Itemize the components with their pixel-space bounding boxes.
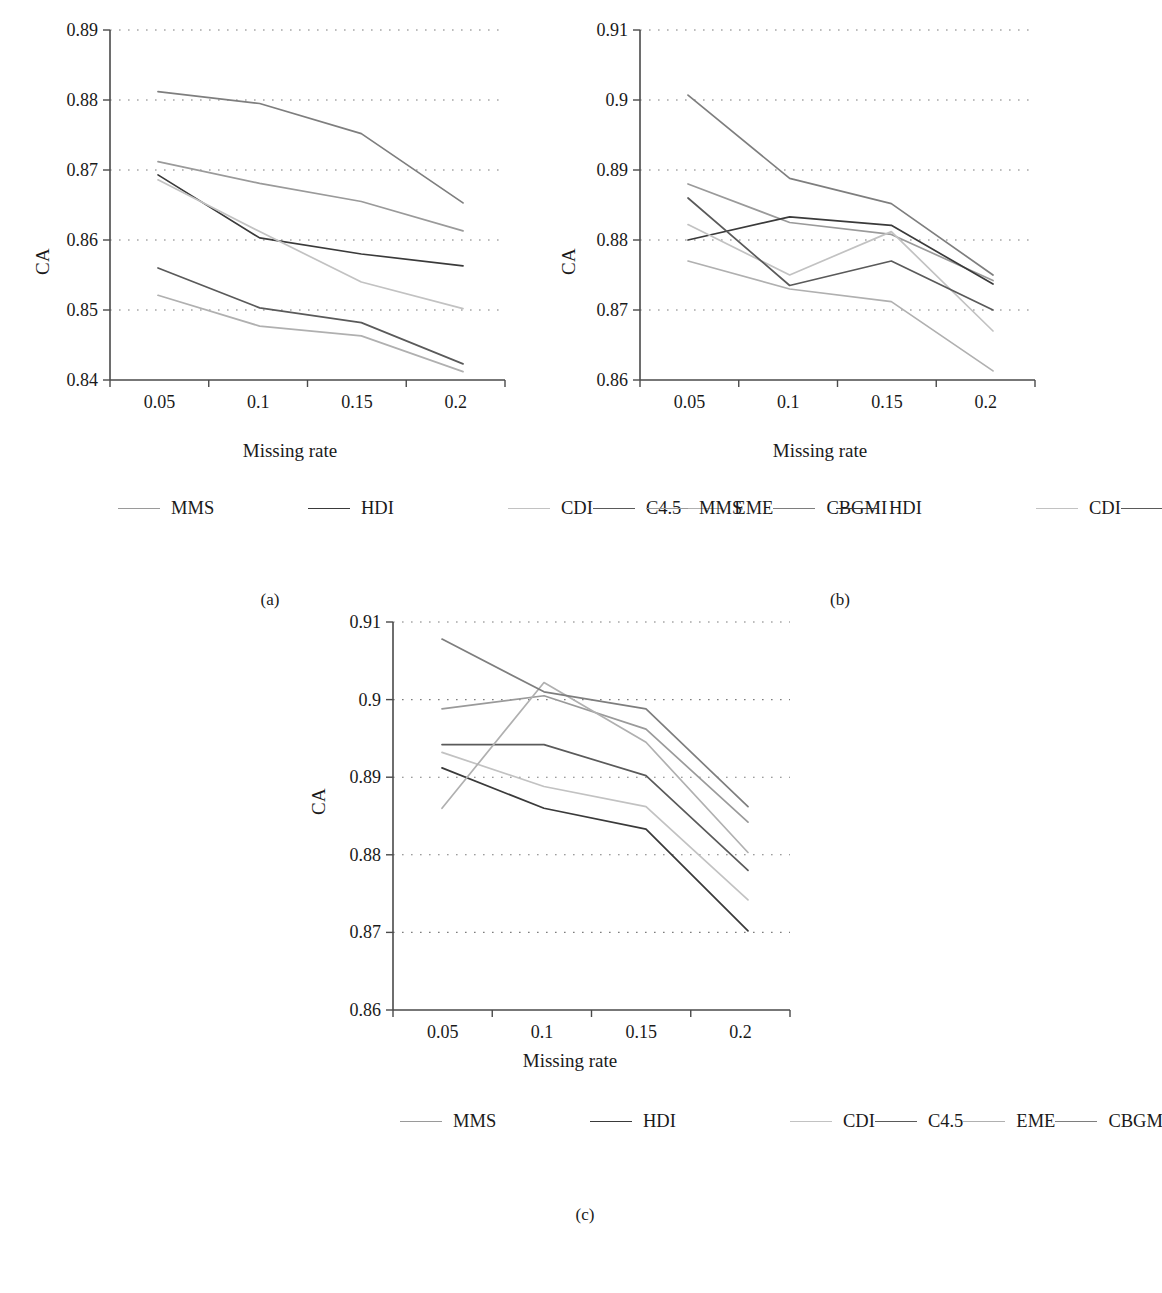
legend-line-icon — [875, 1121, 917, 1122]
x-axis-label-c: Missing rate — [390, 1050, 750, 1072]
series-line-cdi — [158, 180, 463, 309]
y-tick-label: 0.89 — [67, 20, 99, 40]
legend-item-c4-5: C4.5 — [875, 1111, 963, 1132]
x-tick-label: 0.05 — [427, 1022, 459, 1042]
y-tick-label: 0.88 — [350, 845, 382, 865]
legend-line-icon — [1036, 508, 1078, 509]
x-tick-label: 0.1 — [531, 1022, 554, 1042]
legend-item-hdi: HDI — [308, 498, 508, 519]
y-tick-label: 0.9 — [359, 690, 382, 710]
legend-label: EME — [1016, 1111, 1055, 1132]
y-tick-label: 0.9 — [606, 90, 629, 110]
legend-item-hdi: HDI — [836, 498, 1036, 519]
legend-line-icon — [646, 508, 688, 509]
legend-item-mms: MMS — [118, 498, 308, 519]
series-line-mms — [688, 184, 993, 281]
x-tick-label: 0.15 — [625, 1022, 657, 1042]
chart-panel-c: CA 0.860.870.880.890.90.910.050.10.150.2… — [290, 600, 850, 1290]
y-tick-label: 0.91 — [597, 20, 629, 40]
legend-line-icon — [836, 508, 878, 509]
legend-label: CDI — [843, 1111, 875, 1132]
series-line-cbgmi — [442, 639, 748, 807]
y-tick-label: 0.88 — [597, 230, 629, 250]
legend-item-c4-5: C4.5 — [1121, 498, 1162, 519]
series-line-hdi — [442, 768, 748, 931]
y-tick-label: 0.86 — [67, 230, 99, 250]
legend-label: HDI — [889, 498, 922, 519]
legend-item-cdi: CDI — [1036, 498, 1121, 519]
legend-line-icon — [1055, 1121, 1097, 1122]
y-tick-label: 0.86 — [350, 1000, 382, 1020]
legend-label: HDI — [361, 498, 394, 519]
y-tick-label: 0.88 — [67, 90, 99, 110]
x-tick-label: 0.15 — [871, 392, 903, 412]
x-axis-label-b: Missing rate — [640, 440, 1000, 462]
legend-item-cbgmi: CBGMI — [1055, 1111, 1162, 1132]
legend-line-icon — [790, 1121, 832, 1122]
x-tick-label: 0.05 — [674, 392, 706, 412]
x-tick-label: 0.2 — [444, 392, 467, 412]
legend-line-icon — [1121, 508, 1162, 509]
series-line-eme — [158, 295, 463, 371]
legend-label: MMS — [699, 498, 742, 519]
legend-item-hdi: HDI — [590, 1111, 790, 1132]
x-tick-label: 0.15 — [341, 392, 373, 412]
x-axis-label-a: Missing rate — [110, 440, 470, 462]
series-line-cdi — [688, 225, 993, 331]
y-axis-label-a: CA — [32, 248, 54, 275]
legend-item-mms: MMS — [646, 498, 836, 519]
y-tick-label: 0.84 — [67, 370, 99, 390]
series-line-eme — [688, 261, 993, 371]
legend-line-icon — [590, 1121, 632, 1122]
chart-panel-b: CA 0.860.870.880.890.90.910.050.10.150.2… — [540, 10, 1100, 630]
y-tick-label: 0.89 — [350, 767, 382, 787]
chart-panel-a: CA 0.840.850.860.870.880.890.050.10.150.… — [0, 10, 540, 630]
legend-c: MMSHDICDIC4.5EMECBGMI — [400, 1108, 1162, 1135]
y-tick-label: 0.91 — [350, 612, 382, 632]
x-tick-label: 0.05 — [144, 392, 176, 412]
legend-item-eme: EME — [963, 1111, 1055, 1132]
figure-root: CA 0.840.850.860.870.880.890.050.10.150.… — [0, 0, 1162, 1293]
legend-item-mms: MMS — [400, 1111, 590, 1132]
legend-label: MMS — [453, 1111, 496, 1132]
legend-label: CDI — [1089, 498, 1121, 519]
y-tick-label: 0.89 — [597, 160, 629, 180]
series-line-cdi — [442, 752, 748, 899]
legend-line-icon — [118, 508, 160, 509]
x-tick-label: 0.2 — [729, 1022, 752, 1042]
y-tick-label: 0.87 — [597, 300, 629, 320]
plot-area-c: 0.860.870.880.890.90.910.050.10.150.2 — [290, 600, 850, 1060]
x-tick-label: 0.1 — [247, 392, 270, 412]
legend-line-icon — [963, 1121, 1005, 1122]
legend-label: HDI — [643, 1111, 676, 1132]
y-axis-label-c: CA — [308, 788, 330, 815]
legend-b: MMSHDICDIC4.5EMECBGMI — [646, 495, 1162, 522]
series-line-cbgmi — [158, 92, 463, 203]
legend-label: MMS — [171, 498, 214, 519]
legend-label: CBGMI — [1108, 1111, 1162, 1132]
x-tick-label: 0.2 — [974, 392, 997, 412]
plot-area-b: 0.860.870.880.890.90.910.050.10.150.2 — [540, 10, 1100, 450]
series-line-hdi — [158, 175, 463, 266]
y-tick-label: 0.87 — [350, 922, 382, 942]
legend-item-cdi: CDI — [790, 1111, 875, 1132]
series-line-c4-5 — [158, 268, 463, 364]
y-axis-label-b: CA — [558, 248, 580, 275]
y-tick-label: 0.87 — [67, 160, 99, 180]
caption-c: (c) — [555, 1205, 615, 1225]
y-tick-label: 0.85 — [67, 300, 99, 320]
legend-line-icon — [400, 1121, 442, 1122]
legend-line-icon — [308, 508, 350, 509]
plot-area-a: 0.840.850.860.870.880.890.050.10.150.2 — [0, 10, 540, 450]
x-tick-label: 0.1 — [777, 392, 800, 412]
legend-label: C4.5 — [928, 1111, 963, 1132]
y-tick-label: 0.86 — [597, 370, 629, 390]
